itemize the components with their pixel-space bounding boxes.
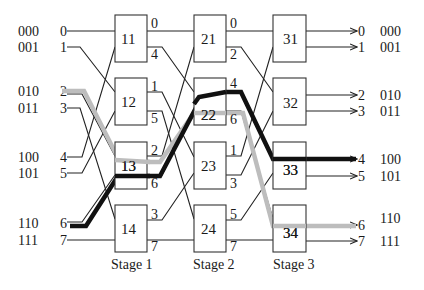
output-wires: [306, 31, 357, 241]
output-port-2: 2: [358, 88, 365, 103]
switch-label-21: 21: [201, 31, 216, 47]
stage1-switches: 11 12 13 14: [115, 15, 147, 252]
stage-labels: Stage 1 Stage 2 Stage 3: [111, 257, 315, 272]
s2-out-3: 6: [230, 112, 237, 127]
switch-label-14: 14: [121, 221, 137, 237]
s2-out-2: 4: [230, 76, 237, 91]
input-port-7: 7: [60, 233, 67, 248]
input-binary-3: 011: [18, 101, 38, 116]
s2-out-4: 1: [230, 143, 237, 158]
s1-out-7: 7: [151, 239, 158, 254]
output-port-3: 3: [358, 104, 365, 119]
s1-out-2: 1: [151, 79, 158, 94]
input-port-3: 3: [60, 101, 67, 116]
stage-2-label: Stage 2: [193, 257, 235, 272]
stage-3-label: Stage 3: [273, 257, 315, 272]
s2-out-5: 3: [230, 176, 237, 191]
stage2-switches: 21 22 23 24: [194, 15, 226, 252]
input-binary-2: 010: [18, 84, 39, 99]
s2-out-6: 5: [230, 207, 237, 222]
input-binary-4: 100: [18, 150, 39, 165]
output-binary-7: 111: [380, 234, 400, 249]
svg-text:34: 34: [283, 225, 299, 241]
s1-out-6: 3: [151, 207, 158, 222]
input-port-5: 5: [60, 166, 67, 181]
s1-out-1: 4: [151, 47, 158, 62]
switch-label-12: 12: [121, 94, 136, 110]
s2-out-0: 0: [230, 16, 237, 31]
switch-label-31: 31: [283, 31, 298, 47]
stage2-output-labels: 0 2 4 6 1 3 5 7: [230, 16, 237, 254]
input-labels: 000 0 001 1 010 2 011 3 100 4 101 5 110 …: [18, 24, 67, 248]
switch-label-23: 23: [201, 158, 216, 174]
switch-label-24: 24: [201, 221, 217, 237]
s1-out-3: 5: [151, 111, 158, 126]
input-port-6: 6: [60, 216, 67, 231]
output-binary-0: 000: [380, 24, 401, 39]
svg-text:33: 33: [283, 162, 298, 178]
output-port-6: 6: [358, 218, 365, 233]
stage3-switches: 31 32 33 34: [273, 15, 306, 252]
output-port-4: 4: [358, 152, 365, 167]
output-binary-5: 101: [380, 169, 401, 184]
input-binary-5: 101: [18, 166, 39, 181]
network-diagram: 000 0 001 1 010 2 011 3 100 4 101 5 110 …: [0, 0, 424, 290]
output-port-1: 1: [358, 40, 365, 55]
s2-out-7: 7: [230, 239, 237, 254]
svg-text:13: 13: [121, 158, 136, 174]
switch-label-32: 32: [283, 95, 298, 111]
output-binary-6: 110: [380, 211, 400, 226]
input-port-4: 4: [60, 150, 67, 165]
s1-out-5: 6: [151, 176, 158, 191]
output-binary-3: 011: [380, 104, 400, 119]
output-port-7: 7: [358, 234, 365, 249]
switch-label-11: 11: [121, 31, 135, 47]
output-binary-1: 001: [380, 40, 401, 55]
input-port-1: 1: [60, 40, 67, 55]
output-labels: 0 000 1 001 2 010 3 011 4 100 5 101 6 11…: [358, 24, 401, 249]
stage1-output-labels: 0 4 1 5 2 6 3 7: [151, 16, 158, 254]
output-port-5: 5: [358, 169, 365, 184]
stage-1-label: Stage 1: [111, 257, 153, 272]
s2-out-1: 2: [230, 47, 237, 62]
s1-out-0: 0: [151, 16, 158, 31]
s1-out-4: 2: [151, 143, 158, 158]
output-binary-2: 010: [380, 88, 401, 103]
input-binary-1: 001: [18, 40, 39, 55]
output-port-0: 0: [358, 24, 365, 39]
input-port-0: 0: [60, 24, 67, 39]
output-binary-4: 100: [380, 152, 401, 167]
input-binary-0: 000: [18, 24, 39, 39]
input-binary-6: 110: [18, 216, 38, 231]
svg-text:22: 22: [201, 107, 216, 123]
input-binary-7: 111: [18, 233, 38, 248]
